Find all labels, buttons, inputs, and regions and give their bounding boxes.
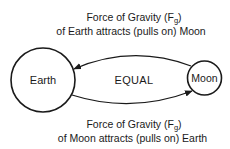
arrow-moon-to-earth — [74, 56, 191, 69]
top-caption-line2: of Earth attracts (pulls on) Moon — [0, 25, 230, 37]
equal-label: EQUAL — [100, 74, 168, 86]
arrow-earth-to-moon — [72, 91, 192, 104]
earth-label: Earth — [11, 74, 75, 86]
caption-text: ) — [178, 118, 182, 130]
bottom-caption-line2: of Moon attracts (pulls on) Earth — [0, 132, 230, 144]
caption-text: Force of Gravity (F — [86, 118, 174, 130]
caption-text: ) — [178, 11, 182, 23]
moon-label: Moon — [187, 72, 222, 84]
caption-text: Force of Gravity (F — [86, 11, 174, 23]
